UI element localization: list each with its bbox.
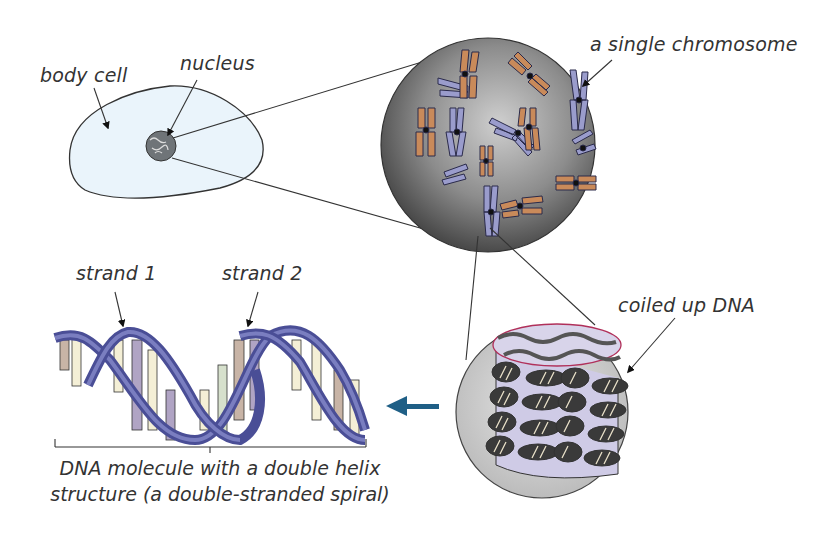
helix-bracket <box>55 439 366 453</box>
nucleus <box>146 131 176 161</box>
caption-line-1: DNA molecule with a double helix <box>20 455 420 481</box>
label-nucleus: nucleus <box>180 52 255 74</box>
coiled-dna-sphere <box>456 324 628 498</box>
dna-double-helix <box>55 330 365 440</box>
label-single-chromosome: a single chromosome <box>590 33 798 55</box>
strand2-pointer <box>248 292 258 326</box>
label-strand-2: strand 2 <box>222 262 303 284</box>
label-strand-1: strand 1 <box>76 262 157 284</box>
label-body-cell: body cell <box>40 64 128 86</box>
chromosome-sphere <box>381 38 596 252</box>
zoom-line-left <box>466 236 478 360</box>
direction-arrow-icon <box>386 396 439 416</box>
label-coiled-dna: coiled up DNA <box>618 294 755 316</box>
caption: DNA molecule with a double helix structu… <box>20 455 420 507</box>
strand1-pointer <box>115 292 123 326</box>
zoom-line-right <box>490 228 595 325</box>
coiled-dna-pointer <box>628 318 675 372</box>
caption-line-2: structure (a double-stranded spiral) <box>20 481 420 507</box>
